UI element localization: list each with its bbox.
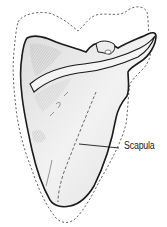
scapula-label: Scapula <box>124 140 155 151</box>
scapula-drawing <box>0 0 167 227</box>
scapula-illustration: Scapula <box>0 0 167 227</box>
coracoid-notch <box>105 50 111 54</box>
